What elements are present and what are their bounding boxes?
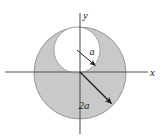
- inner-radius-label: a: [90, 46, 95, 57]
- figure-container: y x a 2a: [0, 0, 165, 140]
- geometry-figure: y x a 2a: [0, 0, 165, 140]
- outer-radius-label: 2a: [79, 99, 91, 111]
- x-axis-label: x: [149, 66, 155, 78]
- y-axis-label: y: [82, 9, 88, 21]
